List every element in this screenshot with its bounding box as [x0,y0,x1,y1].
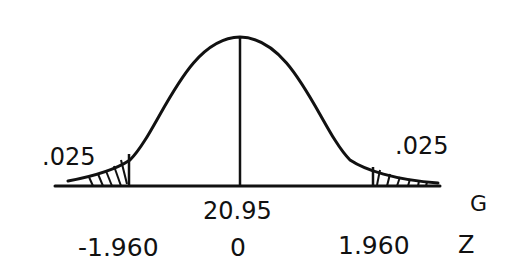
left-tail-area-label: .025 [42,143,95,171]
z-axis-label: Z [458,231,474,259]
z-right-value: 1.960 [338,231,410,260]
bell-curve [68,37,438,183]
center-g-value: 20.95 [203,197,272,225]
normal-curve-diagram: .025 .025 20.95 G -1.960 0 1.960 Z [0,0,517,280]
z-left-value: -1.960 [78,233,159,262]
z-center-value: 0 [230,233,246,262]
g-axis-label: G [470,191,487,216]
right-tail-area-label: .025 [395,132,448,160]
